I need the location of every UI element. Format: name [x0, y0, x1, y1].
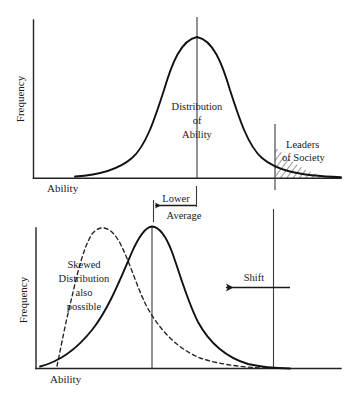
distribution-label-line3: Ability: [182, 129, 213, 140]
leaders-label-line2: of Society: [282, 152, 326, 163]
distribution-label-line1: Distribution: [172, 101, 224, 112]
skewed-label-line2: Distribution: [59, 273, 111, 284]
skewed-label-line4: possible: [67, 301, 102, 312]
skewed-label-line3: also: [76, 287, 93, 298]
leaders-label-line1: Leaders: [286, 139, 319, 150]
top-panel: Frequency Ability Distribution of Abilit…: [14, 17, 341, 194]
top-ylabel: Frequency: [14, 75, 26, 122]
shift-label: Shift: [244, 272, 265, 283]
skewed-distribution-curve: [57, 228, 277, 369]
top-xlabel: Ability: [47, 182, 79, 194]
bottom-panel: Frequency Ability Skewed Distribution al…: [17, 209, 341, 385]
lower-average-annotation: Lower Average: [154, 186, 202, 222]
bottom-xlabel: Ability: [50, 373, 82, 385]
bottom-ylabel: Frequency: [17, 276, 29, 323]
average-label: Average: [167, 210, 202, 221]
distribution-label-line2: of: [193, 115, 202, 126]
distribution-shift-figure: Frequency Ability Distribution of Abilit…: [0, 0, 350, 397]
skewed-label-line1: Skewed: [67, 259, 101, 270]
figure-container: Frequency Ability Distribution of Abilit…: [0, 0, 350, 397]
lower-label: Lower: [162, 193, 190, 204]
